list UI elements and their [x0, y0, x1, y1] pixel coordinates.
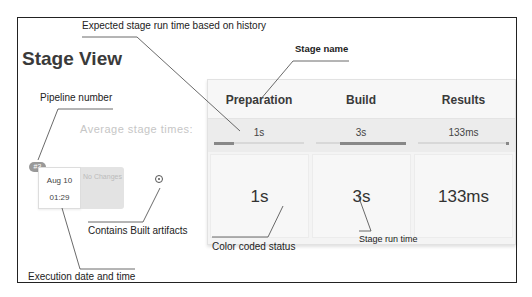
callout-stage-name: Stage name	[295, 43, 348, 54]
avg-time-bar	[214, 142, 304, 144]
stage-header-results[interactable]: Results	[412, 80, 515, 118]
callout-color-coded-status: Color coded status	[212, 241, 295, 252]
stage-header-build[interactable]: Build	[310, 80, 412, 118]
avg-time-value: 1s	[208, 127, 310, 138]
avg-time-build: 3s	[310, 119, 412, 152]
execution-time: 01:29	[39, 193, 80, 202]
callout-stage-run-time: Stage run time	[359, 234, 418, 244]
stage-header-row: Preparation Build Results	[208, 80, 515, 118]
page-title: Stage View	[22, 48, 122, 70]
avg-time-value: 3s	[310, 127, 412, 138]
execution-date-card[interactable]: Aug 10 01:29	[38, 167, 81, 209]
artifact-icon[interactable]	[155, 175, 163, 183]
stage-view-table: Preparation Build Results 1s 3s 133ms 1s…	[207, 79, 516, 245]
stage-header-preparation[interactable]: Preparation	[208, 80, 310, 118]
avg-time-bar	[418, 142, 509, 144]
average-stage-times-label: Average stage times:	[80, 123, 193, 135]
stage-cell-preparation[interactable]: 1s	[210, 154, 309, 238]
build-run-row: 1s 3s 133ms	[208, 154, 515, 240]
execution-date: Aug 10	[39, 176, 80, 185]
avg-time-preparation: 1s	[208, 119, 310, 152]
callout-execution-date-time: Execution date and time	[28, 271, 135, 282]
stage-cell-build[interactable]: 3s	[312, 154, 411, 238]
stage-cell-results[interactable]: 133ms	[414, 154, 513, 238]
callout-expected-time: Expected stage run time based on history	[82, 20, 266, 31]
callout-pipeline-number: Pipeline number	[40, 92, 112, 103]
changes-box[interactable]: No Changes	[81, 167, 124, 209]
avg-time-results: 133ms	[412, 119, 515, 152]
avg-time-bar	[316, 142, 406, 144]
callout-contains-artifacts: Contains Built artifacts	[88, 225, 188, 236]
avg-time-value: 133ms	[412, 127, 515, 138]
average-times-row: 1s 3s 133ms	[208, 118, 515, 152]
